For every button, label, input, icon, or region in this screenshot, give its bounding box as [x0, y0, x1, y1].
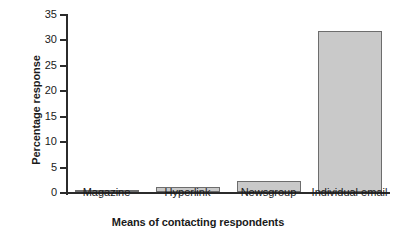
x-tick-label: Hyperlink [165, 186, 211, 198]
y-tick-label: 0 [51, 187, 57, 198]
y-tick-mark [60, 39, 66, 41]
bar-chart-figure: Percentage response 05101520253035 Magaz… [0, 0, 396, 237]
x-tick-label: Magazine [83, 186, 131, 198]
y-tick-label: 20 [45, 85, 57, 96]
y-tick-label: 35 [45, 9, 57, 20]
y-tick-label: 25 [45, 59, 57, 70]
y-axis-line [66, 14, 68, 195]
y-tick-mark [60, 14, 66, 16]
y-tick-label: 5 [51, 161, 57, 172]
y-tick-label: 10 [45, 136, 57, 147]
y-axis-title: Percentage response [30, 30, 42, 190]
y-tick-mark [60, 90, 66, 92]
y-tick-mark [60, 141, 66, 143]
plot-area: 05101520253035 [66, 14, 390, 194]
y-tick-mark [60, 65, 66, 67]
y-tick-mark [60, 167, 66, 169]
bar [318, 31, 382, 192]
x-axis-title: Means of contacting respondents [0, 216, 396, 228]
x-tick-label: Newsgroup [241, 186, 297, 198]
y-tick-mark [60, 116, 66, 118]
y-tick-label: 30 [45, 34, 57, 45]
y-tick-label: 15 [45, 110, 57, 121]
y-tick-mark [60, 192, 66, 194]
x-tick-label: Individual email [312, 186, 388, 198]
